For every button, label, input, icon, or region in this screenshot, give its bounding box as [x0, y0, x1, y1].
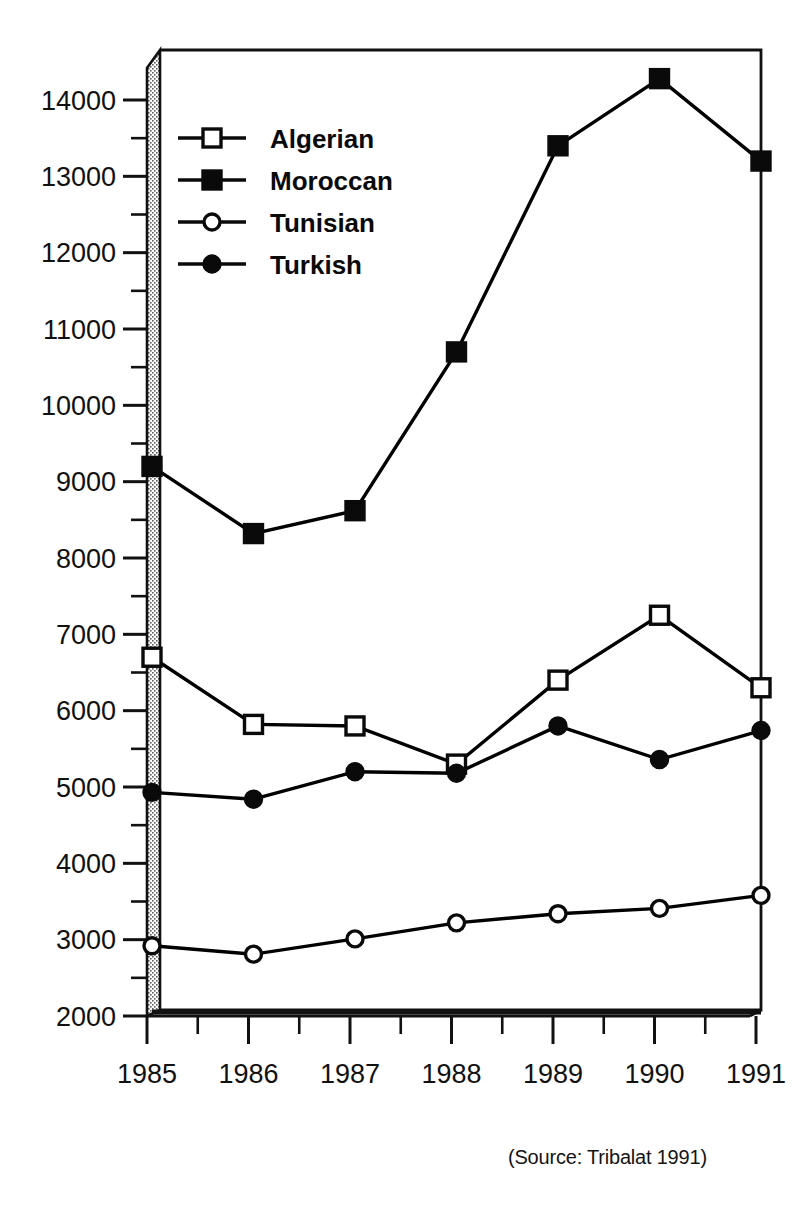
- data-point: [347, 764, 363, 780]
- x-tick-label: 1989: [523, 1059, 583, 1089]
- legend-marker: [204, 256, 220, 272]
- data-point: [449, 765, 465, 781]
- x-tick-label: 1988: [421, 1059, 481, 1089]
- legend-entry-tunisian: Tunisian: [178, 208, 375, 238]
- data-point: [753, 887, 769, 903]
- y-tick-label: 10000: [41, 391, 116, 421]
- legend-label: Algerian: [270, 124, 374, 154]
- chart-legend: AlgerianMoroccanTunisianTurkish: [178, 124, 393, 280]
- data-point: [651, 70, 669, 88]
- legend-label: Moroccan: [270, 166, 393, 196]
- series-line: [152, 79, 761, 534]
- data-point: [346, 502, 364, 520]
- data-point: [246, 791, 262, 807]
- x-tick-label: 1985: [117, 1059, 177, 1089]
- data-point: [246, 946, 262, 962]
- data-point: [752, 679, 770, 697]
- x-axis-ticks: [147, 1016, 756, 1044]
- y-tick-label: 6000: [56, 696, 116, 726]
- series-line: [152, 615, 761, 764]
- data-point: [549, 137, 567, 155]
- data-point: [245, 525, 263, 543]
- x-tick-label: 1991: [726, 1059, 786, 1089]
- data-point: [550, 718, 566, 734]
- data-point: [652, 900, 668, 916]
- chart-frame: [147, 50, 761, 1016]
- axis-depth-wall: [147, 50, 160, 1016]
- y-tick-label: 4000: [56, 849, 116, 879]
- legend-marker: [203, 129, 221, 147]
- x-tick-label: 1986: [218, 1059, 278, 1089]
- data-point: [347, 931, 363, 947]
- y-tick-label: 12000: [41, 238, 116, 268]
- y-axis-tick-labels: 1400013000120001100010000900080007000600…: [41, 86, 116, 1032]
- legend-entry-moroccan: Moroccan: [178, 166, 393, 196]
- data-point: [346, 717, 364, 735]
- chart-plot-area: 1400013000120001100010000900080007000600…: [0, 0, 801, 1110]
- x-tick-label: 1987: [320, 1059, 380, 1089]
- data-point: [143, 648, 161, 666]
- y-tick-label: 13000: [41, 162, 116, 192]
- data-series-layer: [143, 70, 770, 963]
- data-point: [449, 915, 465, 931]
- data-point: [144, 784, 160, 800]
- y-tick-label: 7000: [56, 620, 116, 650]
- y-tick-label: 9000: [56, 467, 116, 497]
- cropped-header-text: [0, 0, 801, 9]
- data-point: [549, 671, 567, 689]
- data-point: [143, 457, 161, 475]
- legend-label: Turkish: [270, 250, 362, 280]
- series-moroccan: [143, 70, 770, 543]
- series-tunisian: [144, 887, 769, 962]
- y-tick-label: 3000: [56, 925, 116, 955]
- legend-label: Tunisian: [270, 208, 375, 238]
- y-tick-label: 2000: [56, 1002, 116, 1032]
- data-point: [753, 723, 769, 739]
- y-axis-ticks: [123, 100, 147, 1016]
- data-point: [245, 715, 263, 733]
- y-tick-label: 14000: [41, 86, 116, 116]
- legend-entry-algerian: Algerian: [178, 124, 374, 154]
- y-tick-label: 8000: [56, 544, 116, 574]
- y-tick-label: 11000: [43, 315, 116, 345]
- y-tick-label: 5000: [56, 773, 116, 803]
- x-tick-label: 1990: [624, 1059, 684, 1089]
- cropped-footer-text: [0, 1200, 801, 1220]
- data-point: [550, 906, 566, 922]
- source-annotation: (Source: Tribalat 1991): [508, 1146, 707, 1169]
- series-algerian: [143, 606, 770, 773]
- line-chart-figure: 1400013000120001100010000900080007000600…: [0, 0, 801, 1220]
- data-point: [144, 938, 160, 954]
- x-axis-tick-labels: 1985198619871988198919901991: [117, 1059, 786, 1089]
- data-point: [448, 343, 466, 361]
- legend-marker: [203, 171, 221, 189]
- legend-entry-turkish: Turkish: [178, 250, 362, 280]
- data-point: [752, 152, 770, 170]
- data-point: [652, 752, 668, 768]
- legend-marker: [204, 214, 220, 230]
- data-point: [651, 606, 669, 624]
